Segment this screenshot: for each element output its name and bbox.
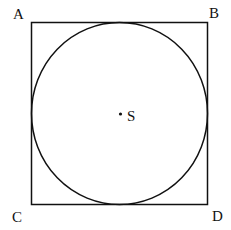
vertex-label-b: B: [209, 6, 219, 21]
center-label-s: S: [127, 109, 135, 124]
vertex-label-a: A: [13, 7, 24, 22]
diagram-canvas: [0, 0, 231, 230]
vertex-label-d: D: [212, 209, 223, 224]
center-point: [119, 112, 122, 115]
vertex-label-c: C: [12, 210, 22, 225]
